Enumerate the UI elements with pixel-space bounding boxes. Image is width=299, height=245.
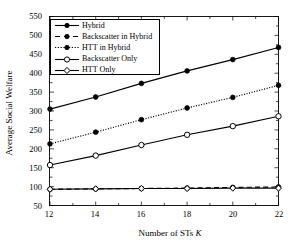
- data-point: [139, 81, 144, 86]
- legend-label-htt-only: HTT Only: [80, 66, 115, 74]
- data-point: [276, 114, 281, 119]
- legend-sample-htt-in-hybrid: [54, 42, 80, 53]
- data-point: [139, 117, 144, 122]
- legend: Hybrid Backscatter in Hybrid HTT in Hybr…: [50, 19, 160, 75]
- data-point: [139, 185, 145, 191]
- legend-sample-backscatter-only: [54, 54, 80, 65]
- legend-item-htt-only[interactable]: HTT Only: [51, 65, 159, 76]
- legend-sample-backscatter-in-hybrid: [54, 31, 80, 42]
- data-point: [184, 132, 189, 137]
- data-point: [276, 45, 281, 50]
- series-backscatter-only: [47, 114, 281, 168]
- data-point: [93, 186, 99, 192]
- legend-item-htt-in-hybrid[interactable]: HTT in Hybrid: [51, 42, 159, 53]
- data-point: [139, 142, 144, 147]
- legend-label-backscatter-only: Backscatter Only: [80, 55, 137, 63]
- data-point: [230, 123, 235, 128]
- legend-label-hybrid: Hybrid: [80, 22, 105, 30]
- legend-label-htt-in-hybrid: HTT in Hybrid: [80, 44, 130, 52]
- data-point: [48, 141, 53, 146]
- figure: Average Social Welfare 550 500 450 400 3…: [0, 0, 299, 245]
- legend-sample-htt-only: [54, 65, 80, 76]
- data-point: [230, 57, 235, 62]
- data-point: [93, 130, 98, 135]
- data-point: [47, 162, 52, 167]
- legend-label-backscatter-in-hybrid: Backscatter in Hybrid: [80, 33, 152, 41]
- data-point: [48, 107, 53, 112]
- data-point: [185, 69, 190, 74]
- legend-item-backscatter-in-hybrid[interactable]: Backscatter in Hybrid: [51, 31, 159, 42]
- legend-sample-hybrid: [54, 20, 80, 31]
- data-point: [276, 83, 281, 88]
- legend-item-hybrid[interactable]: Hybrid: [51, 20, 159, 31]
- series-htt-in-hybrid: [48, 83, 281, 146]
- series-htt-only: [47, 185, 281, 192]
- data-point: [230, 95, 235, 100]
- data-point: [47, 186, 53, 192]
- data-point: [93, 95, 98, 100]
- legend-item-backscatter-only[interactable]: Backscatter Only: [51, 54, 159, 65]
- data-point: [185, 106, 190, 111]
- data-point: [93, 153, 98, 158]
